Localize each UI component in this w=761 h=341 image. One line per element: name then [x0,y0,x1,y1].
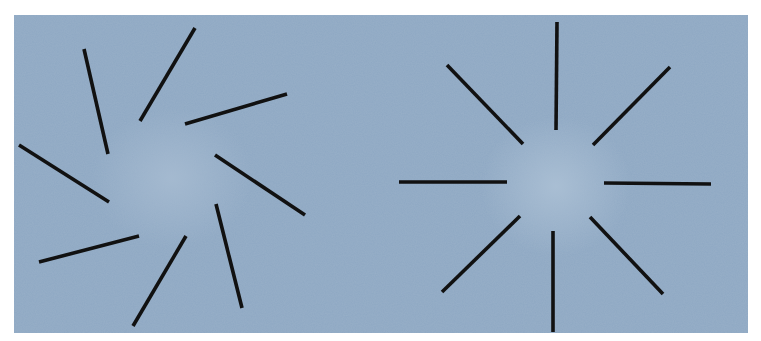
left-center-glow [92,108,252,248]
radial-starburst-line-5 [604,183,711,184]
illusion-figure [0,0,761,341]
radial-starburst-line-1 [556,22,557,130]
